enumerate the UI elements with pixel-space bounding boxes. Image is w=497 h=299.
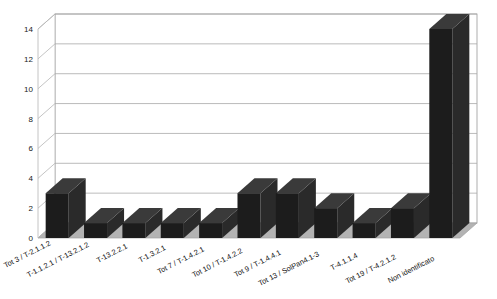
bar-chart: 02468101214 Tot 3 / T-2.1.1.2T-1.1.2.1 /… (0, 0, 497, 299)
bar (429, 14, 469, 238)
y-axis-tick-label: 6 (29, 144, 34, 153)
x-axis-category-label: T-4.1.1.4 (329, 251, 359, 272)
y-axis-tick-label: 4 (29, 174, 34, 183)
x-axis-category-label: T-1.3.2.1 (137, 243, 167, 264)
y-axis-tick-label: 12 (24, 55, 33, 64)
y-axis-tick-label: 14 (24, 25, 33, 34)
y-axis-tick-labels: 02468101214 (24, 25, 33, 243)
y-axis-tick-label: 10 (24, 85, 33, 94)
y-axis-tick-label: 2 (29, 204, 34, 213)
chart-canvas: 02468101214 Tot 3 / T-2.1.1.2T-1.1.2.1 /… (0, 0, 497, 299)
x-axis-category-label: T-13.2.2.1 (95, 242, 129, 265)
y-axis-tick-label: 8 (29, 115, 34, 124)
x-axis-category-labels: Tot 3 / T-2.1.1.2T-1.1.2.1 / T-13.2.1.2T… (2, 239, 435, 288)
y-axis-tick-label: 0 (29, 234, 34, 243)
